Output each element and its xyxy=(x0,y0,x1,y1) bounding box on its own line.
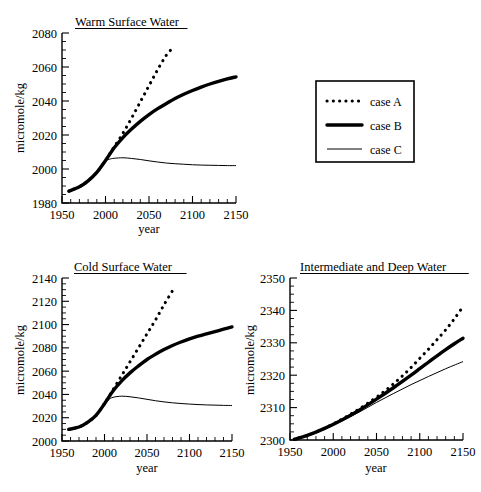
x-tick-label: 2050 xyxy=(135,446,160,460)
panel-title-cold: Cold Surface Water xyxy=(74,260,173,274)
case-legend: case Acase Bcase C xyxy=(315,80,415,163)
panel-title-deep: Intermediate and Deep Water xyxy=(300,260,447,274)
legend-label-case-c: case C xyxy=(370,143,402,157)
y-tick-label: 2300 xyxy=(260,434,285,448)
y-tick-label: 2330 xyxy=(260,336,285,350)
y-axis-title: micromole/kg xyxy=(13,324,27,395)
x-axis-title: year xyxy=(365,461,387,475)
chart-svg-cold: 1950200020502100215020002020204020602080… xyxy=(0,250,245,492)
series-case-c xyxy=(294,362,463,440)
series-case-a xyxy=(294,307,463,440)
chart-panel-cold-surface-water: 1950200020502100215020002020204020602080… xyxy=(0,250,245,492)
y-tick-label: 2120 xyxy=(32,295,57,309)
series-case-a xyxy=(69,50,171,191)
x-tick-label: 2100 xyxy=(177,446,202,460)
legend-label-case-b: case B xyxy=(370,119,402,133)
chart-panel-warm-surface-water: 1950200020502100215019802000202020402060… xyxy=(0,0,300,240)
y-tick-label: 2350 xyxy=(260,272,285,286)
series-case-a xyxy=(69,291,173,430)
figure-three-panel-chart: 1950200020502100215019802000202020402060… xyxy=(0,0,481,492)
legend-svg: case Acase Bcase C xyxy=(315,80,415,163)
chart-svg-warm: 1950200020502100215019802000202020402060… xyxy=(0,0,300,240)
y-tick-label: 2060 xyxy=(32,61,57,75)
y-tick-label: 2000 xyxy=(32,435,57,449)
x-tick-label: 2100 xyxy=(407,445,432,459)
y-tick-label: 2340 xyxy=(260,304,285,318)
series-case-c xyxy=(69,396,232,429)
y-tick-label: 2080 xyxy=(32,27,57,41)
axis-frame-deep xyxy=(290,278,463,440)
x-tick-label: 2000 xyxy=(93,208,118,222)
y-tick-label: 2040 xyxy=(32,388,57,402)
chart-panel-intermediate-deep-water: 1950200020502100215023002310232023302340… xyxy=(238,250,481,492)
axis-frame-warm xyxy=(62,33,236,203)
y-axis-title: micromole/kg xyxy=(243,324,257,395)
x-tick-label: 2150 xyxy=(224,208,249,222)
y-axis-title: micromole/kg xyxy=(13,82,27,153)
y-tick-label: 2100 xyxy=(32,318,57,332)
series-case-b xyxy=(294,338,463,439)
y-tick-label: 2060 xyxy=(32,365,57,379)
x-axis-title: year xyxy=(138,222,160,236)
legend-label-case-a: case A xyxy=(370,95,402,109)
x-axis-title: year xyxy=(136,461,158,475)
y-tick-label: 2000 xyxy=(32,163,57,177)
y-tick-label: 2320 xyxy=(260,369,285,383)
x-tick-label: 2050 xyxy=(364,445,389,459)
y-tick-label: 2020 xyxy=(32,411,57,425)
panel-title-warm: Warm Surface Water xyxy=(75,15,180,29)
y-tick-label: 2310 xyxy=(260,401,285,415)
series-case-b xyxy=(69,77,236,191)
x-tick-label: 2000 xyxy=(92,446,117,460)
y-tick-label: 2020 xyxy=(32,129,57,143)
chart-svg-deep: 1950200020502100215023002310232023302340… xyxy=(238,250,481,492)
x-tick-label: 2100 xyxy=(180,208,205,222)
x-tick-label: 2000 xyxy=(321,445,346,459)
y-tick-label: 2040 xyxy=(32,95,57,109)
x-tick-label: 2150 xyxy=(451,445,476,459)
x-tick-label: 2050 xyxy=(137,208,162,222)
y-tick-label: 2080 xyxy=(32,341,57,355)
series-case-b xyxy=(69,327,232,429)
y-tick-label: 1980 xyxy=(32,197,57,211)
y-tick-label: 2140 xyxy=(32,272,57,286)
